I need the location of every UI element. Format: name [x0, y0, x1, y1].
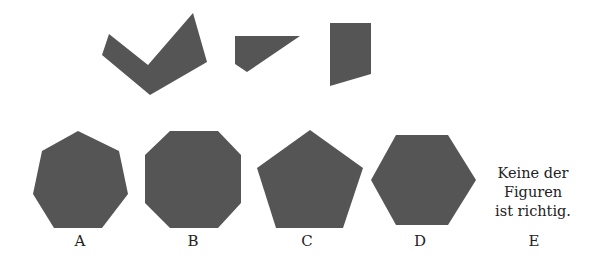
- option-e-label[interactable]: E: [519, 232, 549, 250]
- option-c-label[interactable]: C: [292, 232, 322, 250]
- option-e-line-2: Figuren: [488, 183, 578, 202]
- figure-canvas: [0, 0, 598, 260]
- chevron-piece: [102, 13, 207, 95]
- option-e-text[interactable]: Keine der Figuren ist richtig.: [488, 164, 578, 221]
- option-b-octagon[interactable]: [145, 131, 241, 228]
- option-d-label[interactable]: D: [405, 232, 435, 250]
- option-e-line-3: ist richtig.: [488, 202, 578, 221]
- option-e-line-1: Keine der: [488, 164, 578, 183]
- option-a-label[interactable]: A: [65, 232, 95, 250]
- quad-piece: [330, 23, 371, 86]
- option-c-pentagon[interactable]: [257, 130, 363, 228]
- option-b-label[interactable]: B: [178, 232, 208, 250]
- wedge-piece: [235, 36, 300, 72]
- option-d-hexagon[interactable]: [371, 135, 476, 225]
- option-a-heptagon[interactable]: [33, 131, 128, 228]
